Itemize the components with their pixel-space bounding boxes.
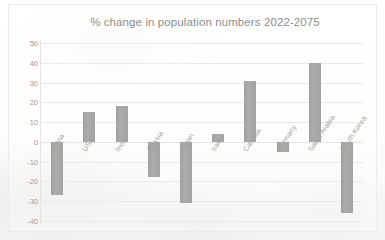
bar <box>244 81 256 142</box>
y-axis-tick-labels: 50403020100-10-20-30-40 <box>4 43 38 221</box>
y-tick-label: 50 <box>8 39 38 48</box>
gridline <box>41 162 363 163</box>
y-tick-label: 30 <box>8 78 38 87</box>
y-tick-label: 10 <box>8 118 38 127</box>
y-tick-label: 40 <box>8 58 38 67</box>
plot-area <box>41 43 363 221</box>
bar <box>116 106 128 142</box>
bar <box>309 63 321 142</box>
gridline <box>41 43 363 44</box>
bar <box>148 142 160 178</box>
y-tick-label: -40 <box>8 217 38 226</box>
chart-screenshot: % change in population numbers 2022-2075… <box>0 0 385 240</box>
y-tick-label: -30 <box>8 197 38 206</box>
y-tick-label: -10 <box>8 157 38 166</box>
gridline <box>41 181 363 182</box>
bar <box>83 112 95 142</box>
y-tick-label: 0 <box>8 137 38 146</box>
bar <box>341 142 353 213</box>
gridline <box>41 221 363 222</box>
gridline <box>41 201 363 202</box>
y-tick-label: -20 <box>8 177 38 186</box>
bar <box>51 142 63 195</box>
bar <box>212 134 224 142</box>
bar <box>180 142 192 203</box>
chart-title: % change in population numbers 2022-2075 <box>40 16 370 28</box>
bar <box>277 142 289 152</box>
zero-gridline <box>41 142 363 143</box>
y-tick-label: 20 <box>8 98 38 107</box>
